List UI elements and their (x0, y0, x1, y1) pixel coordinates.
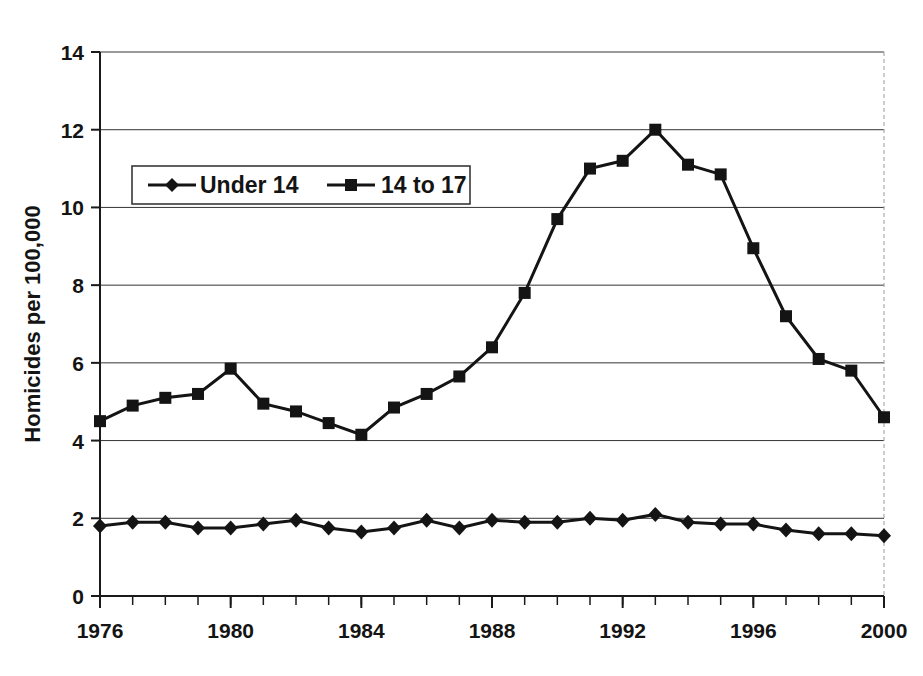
chart-legend: Under 14 14 to 17 (132, 166, 470, 204)
square-marker-icon (682, 159, 694, 171)
square-marker-icon (715, 168, 727, 180)
square-marker-icon (747, 242, 759, 254)
square-marker-icon (127, 400, 139, 412)
legend-label-14-to-17: 14 to 17 (381, 172, 467, 198)
square-marker-icon (225, 363, 237, 375)
y-tick-label-2: 2 (72, 507, 84, 530)
chart-canvas: 02468101214 1976198019841988199219962000… (0, 0, 923, 676)
square-marker-icon (355, 429, 367, 441)
square-marker-icon (878, 411, 890, 423)
square-marker-icon (94, 415, 106, 427)
x-tick-label-1996: 1996 (730, 619, 777, 642)
x-tick-label-1992: 1992 (599, 619, 646, 642)
y-tick-label-12: 12 (61, 119, 84, 142)
square-marker-icon (845, 365, 857, 377)
square-marker-icon (388, 402, 400, 414)
square-marker-icon (813, 353, 825, 365)
y-tick-label-4: 4 (72, 430, 84, 453)
x-tick-label-2000: 2000 (861, 619, 908, 642)
legend-label-under-14: Under 14 (200, 172, 299, 198)
square-marker-icon (323, 417, 335, 429)
homicide-rate-line-chart: 02468101214 1976198019841988199219962000… (0, 0, 923, 676)
square-marker-icon (780, 310, 792, 322)
x-tick-label-1984: 1984 (338, 619, 385, 642)
y-tick-label-14: 14 (61, 41, 85, 64)
square-marker-icon (159, 392, 171, 404)
square-marker-icon (453, 370, 465, 382)
square-marker-icon (421, 388, 433, 400)
x-tick-label-1988: 1988 (469, 619, 516, 642)
square-marker-icon (345, 179, 357, 191)
x-tick-label-1976: 1976 (77, 619, 124, 642)
y-tick-label-0: 0 (72, 585, 84, 608)
square-marker-icon (617, 155, 629, 167)
y-tick-label-6: 6 (72, 352, 84, 375)
y-axis-ticks: 02468101214 (61, 41, 100, 608)
square-marker-icon (486, 341, 498, 353)
square-marker-icon (257, 398, 269, 410)
y-tick-label-8: 8 (72, 274, 84, 297)
y-axis-title: Homicides per 100,000 (20, 205, 45, 442)
x-axis-major-ticks: 1976198019841988199219962000 (77, 596, 908, 642)
square-marker-icon (519, 287, 531, 299)
square-marker-icon (649, 124, 661, 136)
y-tick-label-10: 10 (61, 196, 84, 219)
square-marker-icon (192, 388, 204, 400)
square-marker-icon (551, 213, 563, 225)
square-marker-icon (584, 163, 596, 175)
x-tick-label-1980: 1980 (207, 619, 254, 642)
square-marker-icon (290, 405, 302, 417)
